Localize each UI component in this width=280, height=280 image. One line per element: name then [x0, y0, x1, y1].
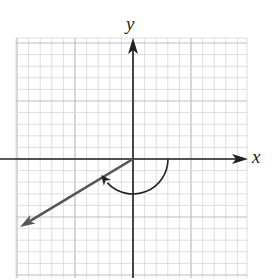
coordinate-plane-figure: y x: [0, 0, 280, 280]
grid: [16, 38, 247, 278]
axes: [0, 38, 248, 278]
y-axis-label: y: [126, 14, 134, 33]
x-axis-label: x: [252, 147, 260, 166]
coordinate-plane: [0, 0, 280, 280]
angle-arc: [107, 159, 168, 194]
rotation-arc: [101, 159, 168, 194]
